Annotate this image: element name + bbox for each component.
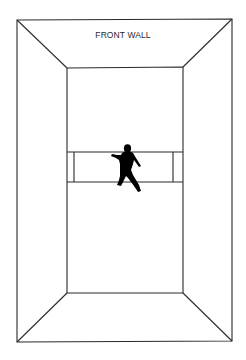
front-wall-label: FRONT WALL xyxy=(0,30,246,40)
corner-line-bottom-right xyxy=(183,293,232,341)
corner-line-top-right xyxy=(183,19,232,67)
corner-line-top-left xyxy=(17,20,67,68)
court-diagram xyxy=(0,0,246,360)
corner-line-bottom-left xyxy=(17,293,67,342)
floor-outline xyxy=(67,67,183,293)
